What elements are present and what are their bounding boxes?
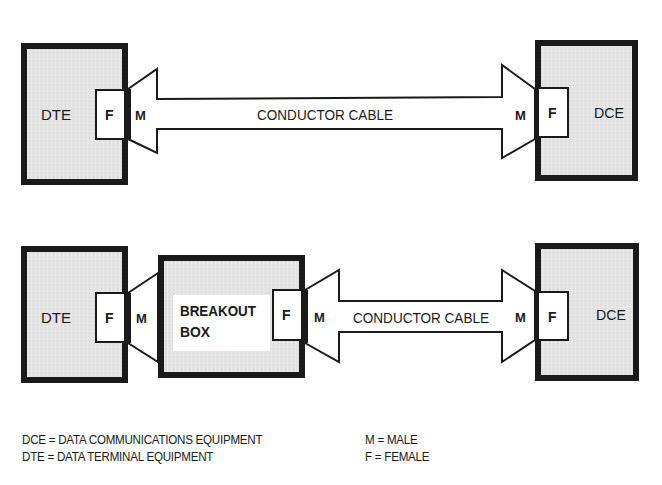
legend-meaning: DATA COMMUNICATIONS EQUIPMENT <box>58 432 262 447</box>
connection-diagram: DTE F M CONDUCTOR CABLE M DCE F DT <box>0 0 662 485</box>
bottom-dce-female-connector: F <box>538 292 568 340</box>
legend-equals: = <box>375 449 382 464</box>
legend-row-male: M = MALE <box>365 431 429 448</box>
breakout-male-label: M <box>136 311 147 326</box>
legend-term: DTE <box>22 449 44 464</box>
top-dce-connector-label: F <box>548 105 557 121</box>
top-cable-right-male-label: M <box>515 108 526 123</box>
breakout-female-connector: F <box>273 290 302 340</box>
legend-definitions: DCE = DATA COMMUNICATIONS EQUIPMENT DTE … <box>22 431 262 465</box>
legend-term: F <box>365 449 372 464</box>
legend-meaning: DATA TERMINAL EQUIPMENT <box>57 449 213 464</box>
legend-genders: M = MALE F = FEMALE <box>365 431 429 465</box>
top-configuration: DTE F M CONDUCTOR CABLE M DCE F <box>24 43 635 182</box>
legend-term: DCE <box>22 432 46 447</box>
bottom-cable-left-male-label: M <box>314 310 325 325</box>
legend-equals: = <box>47 449 54 464</box>
bottom-conductor-cable: M CONDUCTOR CABLE M <box>305 270 535 362</box>
legend-row-dte: DTE = DATA TERMINAL EQUIPMENT <box>22 448 262 465</box>
top-conductor-cable: M CONDUCTOR CABLE M <box>128 65 535 158</box>
bottom-dte-female-connector: F <box>96 293 125 342</box>
top-dte-female-connector: F <box>96 90 125 139</box>
top-dte-label: DTE <box>41 106 71 123</box>
legend-meaning: FEMALE <box>384 449 429 464</box>
legend-equals: = <box>49 432 56 447</box>
top-dte-connector-label: F <box>105 107 114 123</box>
top-cable-left-male-label: M <box>135 108 146 123</box>
legend-meaning: MALE <box>387 432 418 447</box>
bottom-dce-connector-label: F <box>548 309 557 325</box>
legend-row-female: F = FEMALE <box>365 448 429 465</box>
bottom-cable-label: CONDUCTOR CABLE <box>353 309 489 326</box>
breakout-male-adapter: M <box>128 273 158 362</box>
breakout-label-line2: BOX <box>180 323 210 340</box>
bottom-cable-right-male-label: M <box>515 310 526 325</box>
legend-equals: = <box>377 432 384 447</box>
top-cable-label: CONDUCTOR CABLE <box>257 106 393 123</box>
legend-term: M <box>365 432 374 447</box>
breakout-label-line1: BREAKOUT <box>180 302 256 319</box>
top-dce-label: DCE <box>594 104 624 121</box>
bottom-dte-label: DTE <box>41 309 71 326</box>
top-dce-female-connector: F <box>538 88 568 137</box>
breakout-connector-label: F <box>282 307 291 323</box>
bottom-dte-connector-label: F <box>105 310 114 326</box>
bottom-configuration: DTE F M BREAKOUT BOX F M CONDUCTOR <box>24 246 636 380</box>
bottom-dce-label: DCE <box>596 306 626 323</box>
legend-row-dce: DCE = DATA COMMUNICATIONS EQUIPMENT <box>22 431 262 448</box>
